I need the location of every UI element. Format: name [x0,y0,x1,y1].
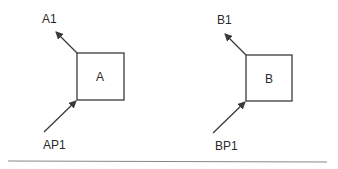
block-b [213,34,292,133]
arrow-b1-icon [225,34,246,55]
arrow-bp1-icon [213,102,245,133]
arrow-ap1-icon [44,101,76,132]
block-b-label: B [265,73,273,85]
input-label-bp1: BP1 [215,140,238,152]
block-a-label: A [96,71,104,83]
input-label-ap1: AP1 [43,139,66,151]
separator-line [8,161,327,162]
arrow-a1-icon [56,32,77,53]
block-a [44,32,124,132]
output-label-b1: B1 [217,14,232,26]
output-label-a1: A1 [42,13,57,25]
